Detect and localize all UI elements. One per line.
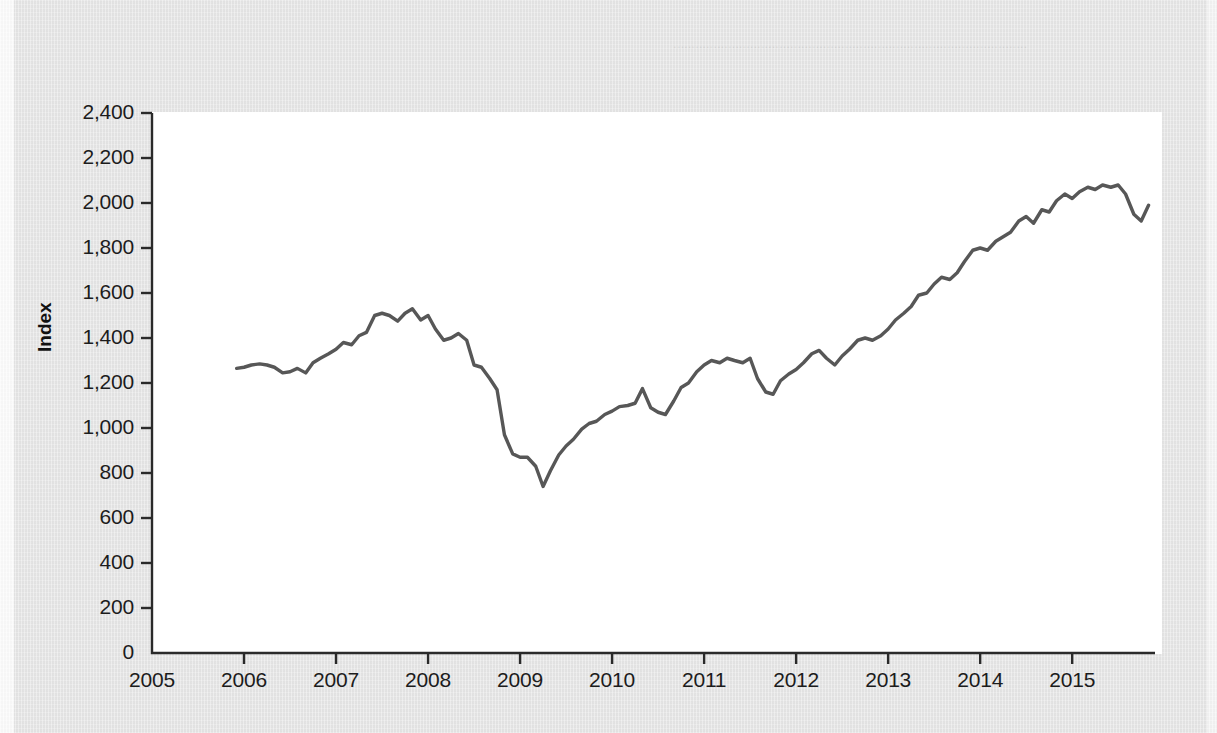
y-tick-label: 1,800 [40, 235, 134, 259]
y-tick-label: 600 [40, 505, 134, 529]
plot-canvas [0, 0, 1217, 733]
y-tick-label: 800 [40, 460, 134, 484]
y-tick-label: 0 [40, 640, 134, 664]
y-tick-label: 1,600 [40, 280, 134, 304]
y-tick-label: 2,400 [40, 100, 134, 124]
y-axis-title: Index [34, 302, 56, 352]
x-tick-label: 2006 [194, 668, 294, 692]
x-tick-label: 2007 [286, 668, 386, 692]
y-tick-label: 2,200 [40, 145, 134, 169]
x-tick-label: 2013 [838, 668, 938, 692]
y-tick-label: 200 [40, 595, 134, 619]
figure-page: ........................................… [0, 0, 1217, 733]
x-tick-label: 2009 [470, 668, 570, 692]
axis-ticks [141, 113, 1072, 664]
index-line-series [237, 185, 1149, 487]
x-tick-label: 2008 [378, 668, 478, 692]
y-tick-label: 400 [40, 550, 134, 574]
stock-index-chart: 02004006008001,0001,2001,4001,6001,8002,… [0, 0, 1217, 733]
x-tick-label: 2015 [1022, 668, 1122, 692]
y-tick-label: 1,200 [40, 370, 134, 394]
axis-lines [152, 113, 1155, 653]
x-tick-label: 2014 [930, 668, 1030, 692]
x-tick-label: 2011 [654, 668, 754, 692]
x-tick-label: 2010 [562, 668, 662, 692]
y-tick-label: 2,000 [40, 190, 134, 214]
y-tick-label: 1,000 [40, 415, 134, 439]
x-tick-label: 2012 [746, 668, 846, 692]
x-tick-label: 2005 [102, 668, 202, 692]
